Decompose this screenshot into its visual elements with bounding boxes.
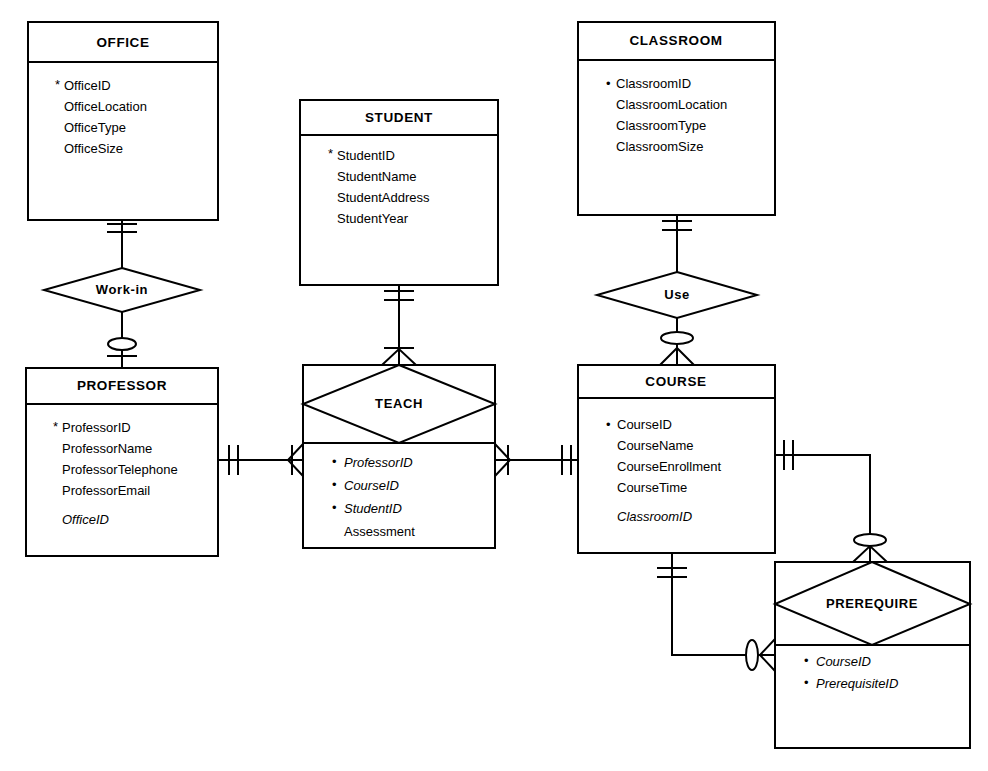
entity-student-title: STUDENT — [365, 110, 433, 125]
teach-attr-0: ProfessorID — [344, 455, 413, 470]
connector-use-course — [660, 318, 694, 365]
prerequire-attr-0: CourseID — [816, 654, 871, 669]
entity-professor-attr-1: ProfessorName — [62, 441, 152, 456]
entity-office-attr-0: OfficeID — [64, 78, 111, 93]
entity-classroom-attr-3: ClassroomSize — [616, 139, 703, 154]
teach-attr-1: CourseID — [344, 478, 399, 493]
relationship-work-in[interactable]: Work-in — [44, 268, 200, 312]
entity-classroom-title: CLASSROOM — [629, 33, 722, 48]
entity-office[interactable]: OFFICE * OfficeID OfficeLocation OfficeT… — [28, 22, 218, 220]
entity-office-attr-3: OfficeSize — [64, 141, 123, 156]
entity-classroom-attr-2: ClassroomType — [616, 118, 706, 133]
associative-entity-prerequire-title: PREREQUIRE — [826, 596, 918, 611]
entity-student-attr-1: StudentName — [337, 169, 417, 184]
cardinality-zero-circle — [746, 640, 758, 670]
entity-office-attr-1: OfficeLocation — [64, 99, 147, 114]
associative-entity-teach[interactable]: TEACH • ProfessorID • CourseID • Student… — [303, 365, 495, 548]
entity-classroom[interactable]: CLASSROOM • ClassroomID ClassroomLocatio… — [578, 22, 775, 215]
entity-professor-attr-0: ProfessorID — [62, 420, 131, 435]
entity-professor[interactable]: PROFESSOR * ProfessorID ProfessorName Pr… — [26, 368, 218, 556]
entity-student-attr-0: StudentID — [337, 148, 395, 163]
connector-student-teach — [382, 285, 416, 365]
relationship-use[interactable]: Use — [597, 272, 757, 318]
entity-course-title: COURSE — [645, 374, 706, 389]
entity-student-attr-0-key: * — [328, 146, 333, 161]
entity-course-attr-1: CourseName — [617, 438, 694, 453]
entity-professor-attr-4: OfficeID — [62, 512, 109, 527]
entity-student[interactable]: STUDENT * StudentID StudentName StudentA… — [300, 100, 498, 285]
entity-student-attr-2: StudentAddress — [337, 190, 430, 205]
relationship-work-in-label: Work-in — [96, 282, 148, 297]
entity-course-attr-0: CourseID — [617, 417, 672, 432]
prerequire-attr-0-bullet: • — [804, 653, 809, 668]
entity-professor-attr-0-key: * — [53, 419, 58, 434]
entity-course-attr-4: ClassroomID — [617, 509, 692, 524]
entity-professor-attr-3: ProfessorEmail — [62, 483, 150, 498]
cardinality-zero-circle — [661, 332, 693, 344]
connector-course-prerequire-right — [775, 440, 887, 562]
cardinality-zero-circle — [854, 534, 886, 546]
prerequire-attr-1: PrerequisiteID — [816, 676, 898, 691]
teach-attr-0-bullet: • — [332, 454, 337, 469]
prerequire-attr-1-bullet: • — [804, 675, 809, 690]
entity-professor-attr-2: ProfessorTelephone — [62, 462, 178, 477]
entity-professor-title: PROFESSOR — [77, 378, 167, 393]
entity-office-attr-0-key: * — [55, 77, 60, 92]
entity-course-attr-0-key: • — [606, 417, 611, 432]
connector-course-prerequire-bottom — [657, 553, 775, 671]
entity-course[interactable]: COURSE • CourseID CourseName CourseEnrol… — [578, 365, 775, 553]
entity-office-title: OFFICE — [96, 35, 149, 50]
teach-attr-2: StudentID — [344, 501, 402, 516]
er-diagram-svg: OFFICE * OfficeID OfficeLocation OfficeT… — [0, 0, 988, 771]
relationship-use-label: Use — [664, 287, 690, 302]
cardinality-zero-circle — [108, 338, 136, 350]
connector-teach-course — [495, 444, 578, 476]
connector-office-workin — [107, 220, 137, 268]
er-diagram-canvas: OFFICE * OfficeID OfficeLocation OfficeT… — [0, 0, 988, 771]
connector-professor-teach — [218, 444, 303, 476]
entity-course-attr-2: CourseEnrollment — [617, 459, 721, 474]
teach-attr-3: Assessment — [344, 524, 415, 539]
entity-classroom-attr-0-key: • — [606, 76, 611, 91]
entity-course-attr-3: CourseTime — [617, 480, 687, 495]
teach-attr-2-bullet: • — [332, 500, 337, 515]
entity-office-attr-2: OfficeType — [64, 120, 126, 135]
entity-student-attr-3: StudentYear — [337, 211, 409, 226]
connector-classroom-use — [662, 215, 692, 272]
associative-entity-prerequire[interactable]: PREREQUIRE • CourseID • PrerequisiteID — [775, 562, 970, 748]
associative-entity-teach-title: TEACH — [375, 396, 423, 411]
teach-attr-1-bullet: • — [332, 477, 337, 492]
connector-workin-professor — [107, 312, 137, 368]
entity-classroom-attr-1: ClassroomLocation — [616, 97, 727, 112]
entity-classroom-attr-0: ClassroomID — [616, 76, 691, 91]
